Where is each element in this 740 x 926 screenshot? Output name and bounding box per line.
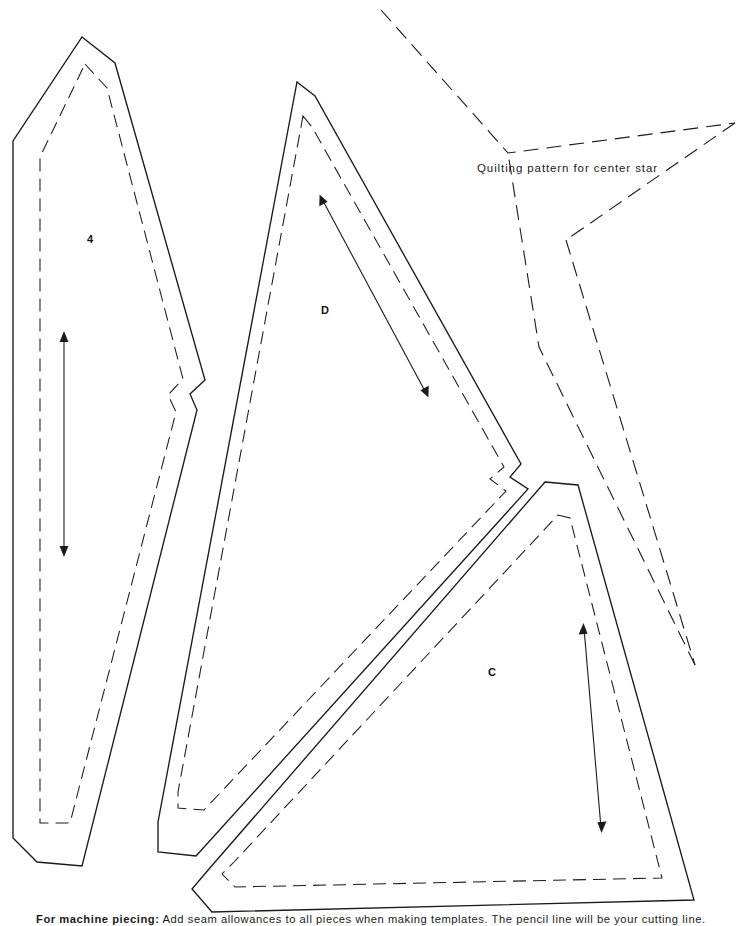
template-piece-4: 4: [13, 37, 205, 866]
template-piece-C: C: [192, 482, 694, 912]
machine-piecing-note: For machine piecing: Add seam allowances…: [36, 912, 720, 926]
piece-4-cutting-line: [13, 37, 205, 866]
piece-D-label: D: [321, 304, 329, 316]
quilting-template-diagram: 4 D C: [0, 0, 740, 926]
piece-4-grain-arrow: [60, 331, 69, 557]
piece-D-seam-line: [178, 116, 506, 810]
piece-D-cutting-line: [158, 82, 528, 856]
piece-C-grain-arrow: [579, 623, 607, 833]
piece-C-cutting-line: [192, 482, 694, 912]
piece-4-label: 4: [87, 233, 94, 245]
star-outline-segment-return: [508, 153, 695, 665]
piece-C-seam-line: [222, 515, 662, 887]
piece-D-grain-arrow: [319, 195, 428, 398]
star-outline-segment-lower-point: [566, 240, 695, 665]
template-sheet: 4 D C Quilting pattern for center: [0, 0, 740, 926]
star-outline-segment-inner-right: [566, 123, 735, 240]
template-piece-D: D: [158, 82, 528, 856]
star-pattern-caption: Quilting pattern for center star: [477, 162, 658, 174]
star-outline-segment-upper: [381, 10, 735, 153]
piece-C-label: C: [488, 666, 496, 678]
piece-4-seam-line: [40, 64, 183, 823]
machine-piecing-note-body: Add seam allowances to all pieces when m…: [160, 913, 706, 925]
machine-piecing-note-lead: For machine piecing:: [36, 913, 160, 925]
